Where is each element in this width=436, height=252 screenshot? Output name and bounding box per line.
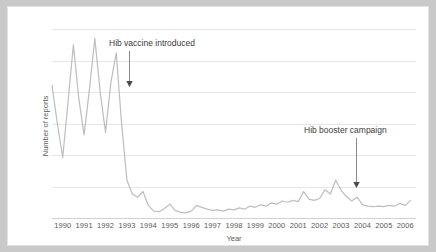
x-axis-tick-1993: 1993	[118, 221, 135, 230]
x-axis-tick-2005: 2005	[375, 221, 392, 230]
x-axis-tick-labels: 1990199119921993199419951996199719981999…	[52, 221, 416, 233]
annotation-arrow-hib-vaccine-introduced	[125, 51, 134, 87]
annotation-arrow-hib-booster-campaign	[352, 138, 361, 188]
x-axis-tick-2001: 2001	[290, 221, 307, 230]
x-axis-tick-1996: 1996	[183, 221, 200, 230]
x-axis-line	[52, 218, 416, 219]
x-axis-tick-1992: 1992	[97, 221, 114, 230]
annotation-label-hib-booster-campaign: Hib booster campaign	[304, 125, 387, 135]
series-hib-reports	[52, 29, 416, 218]
x-axis-tick-1994: 1994	[140, 221, 157, 230]
x-axis-tick-2000: 2000	[268, 221, 285, 230]
x-axis-tick-1995: 1995	[161, 221, 178, 230]
x-axis-tick-1999: 1999	[247, 221, 264, 230]
x-axis-tick-1998: 1998	[225, 221, 242, 230]
chart-figure: Number of reports 050100150200250300 199…	[8, 7, 428, 245]
annotation-label-hib-vaccine-introduced: Hib vaccine introduced	[109, 38, 195, 48]
plot-area: 050100150200250300	[52, 29, 416, 218]
x-axis-tick-2004: 2004	[354, 221, 371, 230]
y-axis-title: Number of reports	[41, 96, 50, 156]
x-axis-tick-1991: 1991	[76, 221, 93, 230]
x-axis-tick-2003: 2003	[333, 221, 350, 230]
x-axis-title: Year	[52, 234, 416, 243]
x-axis-tick-1990: 1990	[54, 221, 71, 230]
x-axis-tick-2006: 2006	[397, 221, 414, 230]
x-axis-tick-1997: 1997	[204, 221, 221, 230]
x-axis-tick-2002: 2002	[311, 221, 328, 230]
